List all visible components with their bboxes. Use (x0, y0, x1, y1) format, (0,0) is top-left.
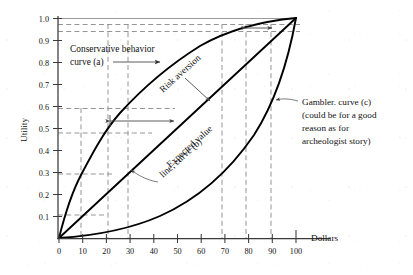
expected-label-line2: line, curve (b) (158, 137, 205, 181)
y-tick-0-7: 0.7 (39, 81, 49, 90)
x-axis-title: Dollars (311, 233, 338, 243)
utility-curve-figure: 1.0 0.9 0.8 0.7 0.6 0.5 0.4 0.3 0.2 0.1 … (0, 0, 413, 275)
gambler-leader (276, 99, 298, 101)
expected-leader (131, 170, 158, 182)
annotation-gambler: Gambler. curve (c) (could be for a good … (276, 97, 377, 146)
x-tick-10: 10 (79, 247, 87, 256)
gambler-label-line4: archeologist story) (302, 136, 371, 146)
x-tick-80: 80 (245, 247, 253, 256)
x-tick-50: 50 (173, 247, 181, 256)
y-tick-0-4: 0.4 (39, 147, 49, 156)
gambler-label-line3: reason as for (302, 123, 349, 133)
x-tick-90: 90 (268, 247, 276, 256)
vertical-guides (81, 24, 271, 238)
y-tick-0-6: 0.6 (39, 103, 49, 112)
y-tick-0-9: 0.9 (39, 37, 49, 46)
gambler-label-line1: Gambler. curve (c) (302, 97, 371, 107)
x-tick-20: 20 (102, 247, 110, 256)
x-tick-0: 0 (57, 247, 61, 256)
gambler-label-line2: (could be for a good (302, 110, 377, 120)
y-tick-0-1: 0.1 (39, 213, 49, 222)
annotation-conservative: Conservative behavior curve (a) (70, 44, 160, 68)
conservative-label-line2: curve (a) (70, 57, 104, 68)
risk-aversion-leader (185, 78, 210, 101)
y-tick-1-0: 1.0 (39, 15, 49, 24)
annotation-risk-aversion: Risk aversion (158, 53, 210, 101)
conservative-label-line1: Conservative behavior (70, 44, 155, 54)
x-tick-40: 40 (150, 247, 158, 256)
y-tick-0-2: 0.2 (39, 191, 49, 200)
x-tick-labels: 0 10 20 30 40 50 60 70 80 90 100 (57, 247, 302, 256)
x-tick-100: 100 (290, 247, 302, 256)
chart-svg: 1.0 0.9 0.8 0.7 0.6 0.5 0.4 0.3 0.2 0.1 … (0, 0, 413, 275)
x-tick-30: 30 (126, 247, 134, 256)
y-tick-0-3: 0.3 (39, 169, 49, 178)
y-axis-title: Utility (19, 118, 29, 142)
x-tick-70: 70 (221, 247, 229, 256)
y-tick-0-8: 0.8 (39, 59, 49, 68)
y-tick-0-5: 0.5 (39, 125, 49, 134)
risk-aversion-span-arrows (110, 28, 272, 127)
x-ticks (59, 230, 296, 243)
y-tick-labels: 1.0 0.9 0.8 0.7 0.6 0.5 0.4 0.3 0.2 0.1 (39, 15, 49, 222)
x-tick-60: 60 (197, 247, 205, 256)
